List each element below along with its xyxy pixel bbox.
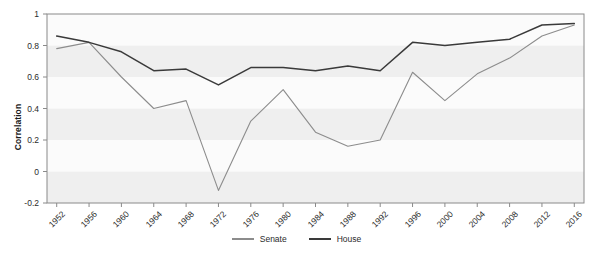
- legend-item-house[interactable]: House: [309, 234, 362, 244]
- x-tick-label: 1952: [46, 209, 66, 229]
- correlation-line-chart: Correlation -0.200.20.40.60.81 195219561…: [0, 0, 593, 254]
- x-tick-label: 1988: [337, 209, 357, 229]
- x-tick-label: 1968: [176, 209, 196, 229]
- legend-line-swatch: [232, 238, 254, 240]
- x-tick-label: 2012: [532, 209, 552, 229]
- x-tick-label: 1980: [273, 209, 293, 229]
- x-tick-label: 1964: [143, 209, 163, 229]
- x-tick-label: 1976: [240, 209, 260, 229]
- x-tick-label: 2000: [435, 209, 455, 229]
- legend-item-senate[interactable]: Senate: [232, 234, 287, 244]
- legend-label: Senate: [260, 234, 287, 244]
- x-tick-label: 1956: [79, 209, 99, 229]
- x-tick-label: 2016: [564, 209, 584, 229]
- legend-label: House: [337, 234, 362, 244]
- x-tick-label: 1972: [208, 209, 228, 229]
- x-axis-tick-labels: 1952195619601964196819721976198019841988…: [0, 0, 593, 254]
- x-tick-label: 2008: [499, 209, 519, 229]
- x-tick-label: 1992: [370, 209, 390, 229]
- x-tick-label: 2004: [467, 209, 487, 229]
- x-tick-label: 1996: [402, 209, 422, 229]
- legend-line-swatch: [309, 238, 331, 240]
- x-tick-label: 1984: [305, 209, 325, 229]
- x-tick-label: 1960: [111, 209, 131, 229]
- chart-legend: SenateHouse: [0, 234, 593, 244]
